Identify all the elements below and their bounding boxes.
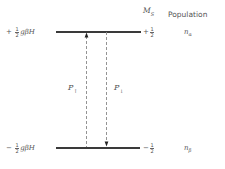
absorption-arrow-icon — [85, 33, 89, 148]
transition-arrows — [0, 0, 225, 169]
emission-probability-label: P↓ — [114, 84, 124, 94]
absorption-probability-label: P↑ — [68, 84, 78, 94]
emission-arrow-icon — [105, 32, 109, 147]
